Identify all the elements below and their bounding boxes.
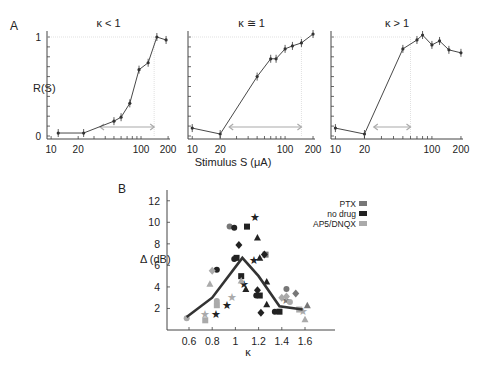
x-tick-label: 10 [46,144,58,155]
scatter-point [302,316,309,323]
legend: PTX no drug AP5/DNQX [313,199,367,229]
panel-label-a: A [10,19,18,33]
data-point [311,32,314,35]
data-point [112,120,115,123]
data-point [447,48,450,51]
scatter-point: ★ [227,291,237,303]
legend-ap5dnqx-label: AP5/DNQX [313,219,356,229]
data-point [363,132,366,135]
panel-a-ylabel: R(S) [33,82,56,94]
x-tick-label: 0.6 [182,335,197,347]
x-tick-label: 1.4 [274,335,289,347]
x-tick-label: 20 [215,144,227,155]
data-point [128,102,131,105]
x-tick-label: 10 [187,144,199,155]
scatter-point [257,309,264,317]
y-tick-label: 2 [154,302,160,314]
x-tick-label: 1.2 [251,335,266,347]
data-point [459,51,462,54]
scatter-point: ★ [200,308,210,320]
data-point [283,47,286,50]
data-point [415,38,418,41]
y-tick-label: 0 [35,131,41,142]
legend-nodrug-swatch [359,211,367,216]
panel-label-b: B [118,182,126,196]
x-tick-label: 200 [160,144,177,155]
y-tick-label: 4 [154,281,160,293]
data-line [58,37,166,133]
scatter-point: ★ [250,211,260,223]
data-point [147,61,150,64]
scatter-point: ★ [298,305,308,317]
data-point [438,39,441,42]
scatter-point [254,234,261,241]
data-point [137,68,140,71]
data-point [334,126,337,129]
subplot-title: κ > 1 [385,17,409,29]
data-point [269,57,272,60]
scatter-point [283,286,289,292]
y-tick-label: 1 [35,32,41,43]
y-tick-label: 6 [154,259,160,271]
scatter-point [214,302,220,308]
data-point [274,57,277,60]
legend-ptx-label: PTX [339,199,356,209]
x-tick-label: 20 [73,144,85,155]
subplot-title: κ < 1 [96,17,120,29]
subplot-2: 1020100200κ ≅ 1 [187,17,322,155]
data-point [119,116,122,119]
panel-b-xlabel: κ [245,346,251,358]
subplot-1: 102010020010κ < 1 [35,17,176,155]
legend-ap5dnqx-swatch [359,221,367,226]
x-tick-label: 100 [424,144,441,155]
y-tick-label: 12 [148,195,160,207]
x-tick-label: 1.6 [298,335,313,347]
y-tick-label: 8 [154,238,160,250]
data-point [256,75,259,78]
data-point [421,33,424,36]
scatter-point [235,241,242,249]
data-point [291,44,294,47]
legend-ptx-swatch [359,201,367,206]
data-point [155,35,158,38]
scatter-point [206,280,213,287]
panel-a-xlabel: Stimulus S (μA) [195,156,272,168]
data-point [164,38,167,41]
data-point [191,126,194,129]
scatter-point [292,289,299,297]
scatter-point [257,293,263,299]
scatter-point [276,309,282,315]
data-point [219,132,222,135]
data-point [430,43,433,46]
figure: A R(S) Stimulus S (μA) 102010020010κ < 1… [0,0,478,369]
data-point [300,41,303,44]
y-tick-label: 10 [148,216,160,228]
data-point [401,47,404,50]
subplot-title: κ ≅ 1 [238,17,265,29]
scatter-point: ★ [211,308,221,320]
scatter-point [234,255,240,261]
x-tick-label: 100 [277,144,294,155]
legend-nodrug-label: no drug [327,209,356,219]
x-tick-label: 20 [359,144,371,155]
x-tick-label: 200 [305,144,322,155]
scatter-point [231,225,237,231]
scatter-point [244,224,250,230]
x-tick-label: 100 [133,144,150,155]
data-point [82,131,85,134]
x-tick-label: 0.8 [205,335,220,347]
scatter-point [287,299,293,305]
x-tick-label: 1 [232,335,238,347]
data-line [335,35,461,134]
data-line [192,34,313,134]
x-tick-label: 10 [330,144,342,155]
scatter-point [263,301,270,308]
subplot-3: 1020100200κ > 1 [330,17,470,155]
x-tick-label: 200 [453,144,470,155]
data-point [57,131,60,134]
